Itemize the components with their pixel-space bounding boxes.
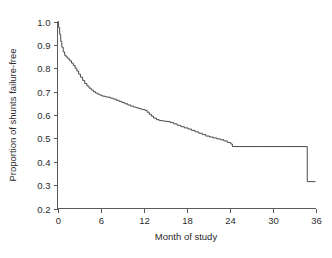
y-tick-label-0.2: 0.2 <box>37 204 50 215</box>
y-axis-title: Proportion of shunts failure-free <box>7 48 18 181</box>
y-tick-label-0.9: 0.9 <box>37 40 50 51</box>
x-tick-label-12: 12 <box>139 215 150 226</box>
x-tick-label-0: 0 <box>56 215 61 226</box>
y-tick-label-0.5: 0.5 <box>37 133 50 144</box>
x-tick-label-30: 30 <box>268 215 279 226</box>
x-tick-label-24: 24 <box>225 215 236 226</box>
x-tick-marks <box>59 209 317 213</box>
x-axis-title: Month of study <box>155 231 218 242</box>
y-tick-labels: 0.20.30.40.50.60.70.80.91.0 <box>37 17 50 215</box>
x-tick-label-18: 18 <box>182 215 193 226</box>
y-axis-group: 0.20.30.40.50.60.70.80.91.0 <box>37 17 57 215</box>
y-tick-label-0.6: 0.6 <box>37 110 50 121</box>
x-axis-group: 061218243036 <box>56 209 322 226</box>
x-tick-labels: 061218243036 <box>56 215 322 226</box>
y-tick-label-1.0: 1.0 <box>37 17 50 28</box>
x-tick-label-6: 6 <box>99 215 104 226</box>
x-tick-label-36: 36 <box>311 215 322 226</box>
km-survival-chart: 0.20.30.40.50.60.70.80.91.0 061218243036… <box>0 0 332 258</box>
y-tick-label-0.4: 0.4 <box>37 157 50 168</box>
chart-canvas: 0.20.30.40.50.60.70.80.91.0 061218243036… <box>0 0 332 258</box>
y-tick-label-0.3: 0.3 <box>37 180 50 191</box>
survival-curve-line <box>58 22 316 182</box>
y-tick-label-0.7: 0.7 <box>37 87 50 98</box>
y-tick-label-0.8: 0.8 <box>37 63 50 74</box>
y-tick-marks <box>54 23 58 210</box>
